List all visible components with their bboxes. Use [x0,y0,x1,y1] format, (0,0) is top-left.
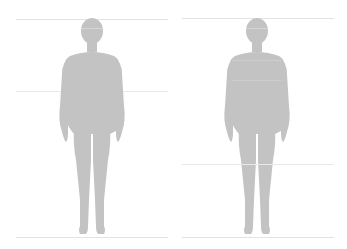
left-figure-panel [0,0,174,249]
right-figure-panel [174,0,347,249]
female-silhouette-icon [174,0,347,249]
female-silhouette-icon [0,0,174,249]
